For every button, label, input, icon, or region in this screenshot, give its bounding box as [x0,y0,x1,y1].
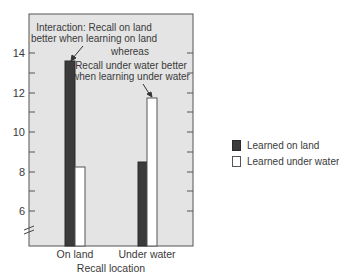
legend-swatch-light [232,156,241,167]
bar-on-land-learned-under-water [75,167,85,246]
x-tick-under-water: Under water [118,248,176,260]
legend-item-learned-on-land: Learned on land [232,138,339,153]
annotation-line-4: Recall under water better [75,60,187,71]
y-tick-14: 14 [13,47,25,59]
legend-item-learned-under-water: Learned under water [232,154,339,169]
y-tick-12: 12 [13,87,25,99]
legend-label: Learned under water [247,156,339,167]
annotation-line-5: when learning under water [71,71,191,82]
bar-under-water-learned-under-water [147,98,157,246]
legend: Learned on land Learned under water [232,138,339,170]
y-tick-labels: 14 12 10 8 6 [13,47,25,217]
bar-under-water-learned-on-land [138,162,147,246]
y-tick-6: 6 [19,205,25,217]
annotation-line-1: Interaction: Recall on land [36,22,152,33]
x-axis-title: Recall location [77,262,145,273]
legend-swatch-dark [232,140,241,151]
annotation-line-2: better when learning on land [31,33,157,44]
x-tick-on-land: On land [57,248,94,260]
y-tick-10: 10 [13,126,25,138]
y-tick-8: 8 [19,166,25,178]
legend-label: Learned on land [247,140,319,151]
x-tick-labels: On land Under water [57,248,176,260]
annotation-line-3: whereas [110,46,149,57]
bar-on-land-learned-on-land [65,61,75,246]
